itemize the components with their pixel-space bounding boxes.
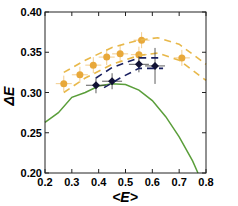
orange-band-upper [64, 38, 206, 73]
y-tick-label: 0.20 [21, 167, 42, 179]
x-tick-label: 0.8 [198, 176, 213, 188]
black-data-point [145, 48, 165, 84]
y-tick-label: 0.25 [21, 127, 42, 139]
black-data-point [129, 56, 149, 72]
orange-data-point [99, 49, 115, 65]
x-tick-label: 0.7 [172, 176, 187, 188]
chart: 0.20.30.40.50.60.70.80.200.250.300.350.4… [0, 0, 238, 206]
y-tick-label: 0.30 [21, 87, 42, 99]
x-tick-label: 0.4 [91, 176, 107, 188]
x-axis-label: <E> [112, 189, 138, 205]
x-tick-label: 0.3 [64, 176, 79, 188]
navy-band-lower [104, 68, 163, 87]
green-curve [45, 84, 198, 173]
orange-data-point [112, 46, 128, 62]
orange-data-point [174, 50, 190, 66]
x-tick-label: 0.6 [145, 176, 160, 188]
plot-frame [45, 12, 206, 173]
y-tick-label: 0.40 [21, 6, 42, 18]
x-tick-label: 0.5 [118, 176, 133, 188]
orange-data-point [72, 67, 88, 83]
y-tick-label: 0.35 [21, 46, 42, 58]
y-axis-label: ΔE [1, 86, 17, 106]
